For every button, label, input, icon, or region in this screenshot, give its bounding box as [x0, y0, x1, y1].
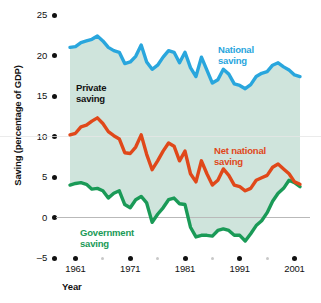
- x-tick-dot-minor: [266, 257, 269, 260]
- series-annotation-private: Privatesaving: [76, 82, 106, 104]
- x-tick-label: 1981: [168, 263, 202, 274]
- annotation-line-2: saving: [76, 93, 106, 104]
- series-annotation-government: Governmentsaving: [80, 227, 134, 249]
- series-annotation-national: Nationalsaving: [218, 44, 254, 66]
- annotation-line-2: saving: [214, 156, 266, 167]
- x-tick-dot: [73, 256, 78, 261]
- plot-area: [0, 0, 321, 303]
- x-tick-label: 1971: [113, 263, 147, 274]
- annotation-line-1: Net national: [214, 145, 266, 156]
- annotation-line-1: Private: [76, 82, 106, 93]
- x-axis-title: Year: [62, 281, 82, 292]
- x-tick-dot: [292, 256, 297, 261]
- x-tick-dot: [237, 256, 242, 261]
- x-tick-label: 1961: [58, 263, 92, 274]
- annotation-line-2: saving: [80, 238, 134, 249]
- x-tick-dot-minor: [211, 257, 214, 260]
- x-tick-dot: [128, 256, 133, 261]
- x-tick-dot: [183, 256, 188, 261]
- x-tick-label: 2001: [278, 263, 312, 274]
- x-tick-dot-minor: [156, 257, 159, 260]
- x-tick-label: 1991: [223, 263, 257, 274]
- chart-root: Saving (percentage of GDP) 2520151050–5 …: [0, 0, 321, 303]
- annotation-line-2: saving: [218, 55, 254, 66]
- annotation-line-1: Government: [80, 227, 134, 238]
- annotation-line-1: National: [218, 44, 254, 55]
- series-annotation-net-national: Net nationalsaving: [214, 145, 266, 167]
